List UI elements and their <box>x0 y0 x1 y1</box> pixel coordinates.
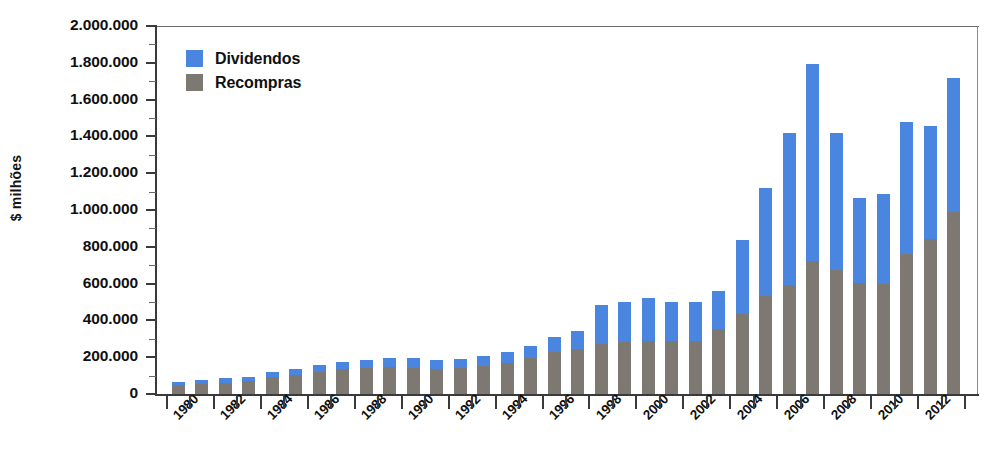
x-axis-tick <box>495 396 497 409</box>
chart-legend: Dividendos Recompras <box>186 48 301 96</box>
legend-item-dividendos: Dividendos <box>186 48 301 69</box>
bar-1991 <box>430 360 443 394</box>
bar-segment-recompras <box>759 296 772 394</box>
bar-2002 <box>689 302 702 394</box>
bar-segment-recompras <box>618 342 631 394</box>
y-axis-tick <box>146 172 157 174</box>
bar-segment-recompras <box>806 261 819 394</box>
bar-2008 <box>830 133 843 394</box>
bar-segment-dividendos <box>853 198 866 283</box>
x-axis-tick <box>307 396 309 409</box>
x-axis-tick-label: 2004 <box>734 391 765 422</box>
bar-segment-dividendos <box>759 188 772 297</box>
x-axis-tick-label: 1994 <box>499 391 530 422</box>
bar-segment-recompras <box>336 369 349 394</box>
x-axis-tick-label: 1996 <box>546 391 577 422</box>
bar-segment-recompras <box>313 372 326 394</box>
bar-segment-recompras <box>477 366 490 394</box>
bar-2001 <box>665 302 678 394</box>
y-axis-tick <box>146 25 157 27</box>
legend-item-recompras: Recompras <box>186 72 301 93</box>
x-axis-tick-label: 2010 <box>875 391 906 422</box>
bar-1990 <box>407 358 420 394</box>
x-axis-tick <box>823 396 825 409</box>
bar-segment-dividendos <box>407 358 420 368</box>
bar-segment-recompras <box>383 367 396 394</box>
x-axis-tick <box>894 396 896 409</box>
bar-segment-recompras <box>595 344 608 394</box>
y-axis-minor-tick <box>149 376 156 377</box>
x-axis-tick-label: 2006 <box>781 391 812 422</box>
x-axis-tick-label: 1982 <box>217 391 248 422</box>
bar-1982 <box>219 378 232 394</box>
x-axis-tick <box>283 396 285 409</box>
bar-segment-dividendos <box>689 302 702 341</box>
x-axis-tick <box>776 396 778 409</box>
stacked-bar-chart: $ milhões 2.000.0001.800.0001.600.0001.4… <box>0 0 999 471</box>
x-axis-tick <box>753 396 755 409</box>
x-axis-tick-label: 2000 <box>640 391 671 422</box>
bar-1996 <box>548 337 561 394</box>
bar-segment-recompras <box>877 284 890 394</box>
x-axis-tick-label: 2008 <box>828 391 859 422</box>
bar-segment-recompras <box>195 384 208 394</box>
y-axis-tick-label: 400.000 <box>83 310 138 328</box>
x-axis-tick <box>213 396 215 409</box>
x-axis-tick <box>565 396 567 409</box>
bar-segment-dividendos <box>877 194 890 283</box>
bar-segment-recompras <box>266 377 279 394</box>
y-axis-tick-label: 800.000 <box>83 237 138 255</box>
bar-segment-dividendos <box>383 358 396 368</box>
x-axis-tick-label: 1980 <box>170 391 201 422</box>
bar-segment-recompras <box>430 369 443 394</box>
bar-1984 <box>266 372 279 394</box>
bar-segment-dividendos <box>430 360 443 369</box>
bar-segment-dividendos <box>924 126 937 239</box>
x-axis-tick <box>706 396 708 409</box>
x-axis-tick <box>424 396 426 409</box>
bar-1989 <box>383 358 396 394</box>
bar-segment-recompras <box>900 254 913 394</box>
y-axis-tick <box>146 319 157 321</box>
bar-segment-recompras <box>689 341 702 394</box>
y-axis-tick-label: 1.600.000 <box>70 90 138 108</box>
bar-segment-dividendos <box>548 337 561 351</box>
bar-segment-dividendos <box>336 362 349 369</box>
bar-segment-recompras <box>454 368 467 394</box>
y-axis-tick <box>146 356 157 358</box>
x-axis-tick <box>612 396 614 409</box>
x-axis-tick <box>964 396 966 409</box>
y-axis-tick <box>146 393 157 395</box>
bar-1998 <box>595 305 608 394</box>
bar-segment-recompras <box>830 270 843 394</box>
bar-segment-dividendos <box>524 346 537 359</box>
bar-segment-recompras <box>712 329 725 394</box>
bar-1985 <box>289 369 302 394</box>
bar-segment-dividendos <box>454 359 467 368</box>
y-axis-minor-tick <box>149 118 156 119</box>
bar-segment-recompras <box>736 314 749 394</box>
bar-segment-recompras <box>783 285 796 394</box>
bar-1995 <box>524 346 537 394</box>
y-axis-minor-tick <box>149 155 156 156</box>
bar-segment-dividendos <box>618 302 631 342</box>
legend-label-recompras: Recompras <box>215 74 301 92</box>
bar-segment-dividendos <box>900 122 913 254</box>
y-axis-minor-tick <box>149 302 156 303</box>
x-axis-tick-label: 2002 <box>687 391 718 422</box>
y-axis-tick-label: 1.800.000 <box>70 53 138 71</box>
bar-segment-dividendos <box>595 305 608 345</box>
bar-segment-dividendos <box>501 352 514 363</box>
legend-label-dividendos: Dividendos <box>215 50 300 68</box>
y-axis-minor-tick <box>149 192 156 193</box>
bar-2000 <box>642 298 655 394</box>
bar-2006 <box>783 133 796 394</box>
bar-segment-recompras <box>665 341 678 394</box>
bar-segment-recompras <box>407 368 420 394</box>
x-axis-tick <box>330 396 332 409</box>
bar-segment-dividendos <box>783 133 796 286</box>
x-axis-tick-label: 1990 <box>405 391 436 422</box>
bar-segment-dividendos <box>477 356 490 366</box>
bar-1999 <box>618 302 631 394</box>
x-axis-tick <box>870 396 872 409</box>
